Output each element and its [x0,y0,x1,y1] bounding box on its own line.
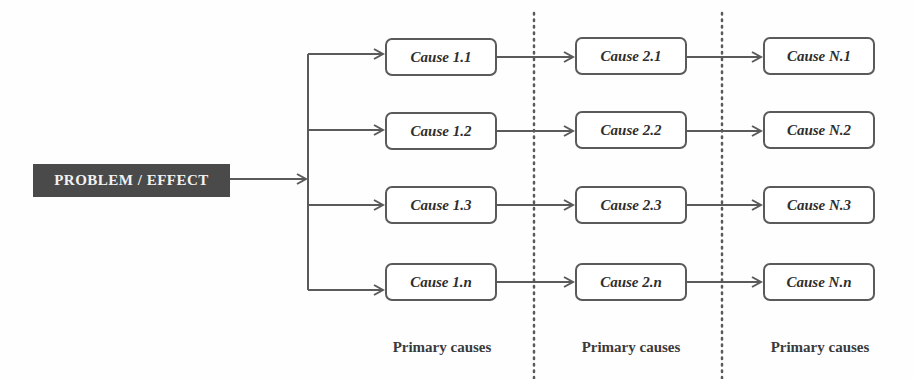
cause-box-n-2: Cause N.2 [763,111,875,149]
diagram-canvas: PROBLEM / EFFECT Cause 1.1 Cause 1.2 Cau… [0,0,914,379]
cause-box-2-3: Cause 2.3 [575,186,687,224]
cause-box-1-3: Cause 1.3 [385,186,497,224]
column-label-2: Primary causes [561,339,701,356]
column-label-1: Primary causes [372,339,512,356]
cause-box-2-1: Cause 2.1 [575,37,687,75]
cause-box-n-3: Cause N.3 [763,186,875,224]
cause-box-n-n: Cause N.n [763,263,875,301]
cause-box-n-1: Cause N.1 [763,37,875,75]
problem-effect-box: PROBLEM / EFFECT [33,164,230,197]
cause-box-2-n: Cause 2.n [575,263,687,301]
cause-box-1-2: Cause 1.2 [385,112,497,150]
cause-box-2-2: Cause 2.2 [575,111,687,149]
cause-box-1-n: Cause 1.n [385,263,497,301]
cause-box-1-1: Cause 1.1 [385,38,497,76]
column-label-n: Primary causes [750,339,890,356]
